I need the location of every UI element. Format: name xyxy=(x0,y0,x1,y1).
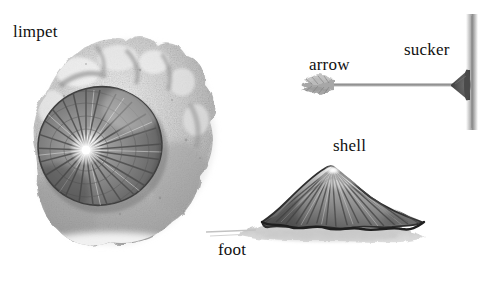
illustration-figure: limpet arrow sucker shell foot xyxy=(0,0,501,282)
label-limpet: limpet xyxy=(13,23,58,40)
shell-foot-illustration xyxy=(206,164,426,242)
label-shell: shell xyxy=(333,137,366,154)
arrow-shaft xyxy=(330,83,455,86)
side-shell-apex-highlight xyxy=(324,165,342,175)
sucker-cup xyxy=(451,70,471,101)
limpet-shell-side-view xyxy=(262,164,426,232)
limpet-on-rock-illustration xyxy=(12,25,230,268)
label-foot: foot xyxy=(218,241,246,258)
label-arrow: arrow xyxy=(309,56,350,73)
arrow-fletching xyxy=(300,74,334,96)
label-sucker: sucker xyxy=(404,41,450,58)
